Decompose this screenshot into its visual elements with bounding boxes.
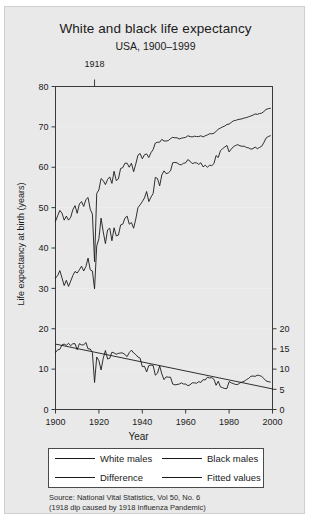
svg-text:10: 10 [280, 364, 290, 374]
svg-text:70: 70 [38, 122, 48, 132]
legend-item-black-males: Black males [156, 453, 263, 464]
grid-lines [56, 87, 273, 410]
svg-text:1960: 1960 [176, 417, 196, 427]
legend-label-black-males: Black males [207, 453, 258, 464]
legend-swatch-difference [55, 477, 95, 478]
legend-swatch-white-males [55, 458, 95, 459]
svg-text:80: 80 [38, 82, 48, 92]
svg-text:20: 20 [280, 324, 290, 334]
source-note-line1: Source: National Vital Statistics, Vol 5… [49, 493, 299, 503]
svg-text:20: 20 [38, 324, 48, 334]
legend-swatch-black-males [162, 458, 202, 459]
svg-text:2000: 2000 [262, 417, 282, 427]
svg-text:15: 15 [280, 344, 290, 354]
chart-legend: White males Black males Difference Fitte… [48, 448, 264, 488]
legend-label-fitted-values: Fitted values [207, 472, 261, 483]
svg-text:40: 40 [38, 243, 48, 253]
svg-text:1920: 1920 [89, 417, 109, 427]
legend-item-white-males: White males [49, 453, 156, 464]
svg-text:30: 30 [38, 284, 48, 294]
chart-plot: 01020304050607080 05101520 1900192019401… [5, 7, 306, 447]
legend-item-difference: Difference [49, 472, 156, 483]
y-axis-right-ticks: 05101520 [273, 324, 290, 415]
svg-text:1940: 1940 [132, 417, 152, 427]
svg-text:10: 10 [38, 364, 48, 374]
legend-item-fitted-values: Fitted values [156, 472, 263, 483]
legend-label-difference: Difference [100, 472, 143, 483]
svg-text:1900: 1900 [45, 417, 65, 427]
y-axis-left-ticks: 01020304050607080 [38, 82, 55, 415]
svg-text:50: 50 [38, 203, 48, 213]
svg-text:5: 5 [280, 385, 285, 395]
svg-text:0: 0 [43, 405, 48, 415]
figure-panel: White and black life expectancy USA, 190… [4, 6, 305, 514]
source-note: Source: National Vital Statistics, Vol 5… [49, 493, 299, 513]
legend-label-white-males: White males [100, 453, 152, 464]
svg-text:0: 0 [280, 405, 285, 415]
svg-text:1980: 1980 [219, 417, 239, 427]
legend-swatch-fitted-values [162, 477, 202, 478]
svg-text:60: 60 [38, 162, 48, 172]
x-axis-ticks: 190019201940196019802000 [45, 410, 282, 427]
source-note-line2: (1918 dip caused by 1918 Influenza Pande… [49, 503, 299, 513]
data-series-group [56, 108, 273, 389]
